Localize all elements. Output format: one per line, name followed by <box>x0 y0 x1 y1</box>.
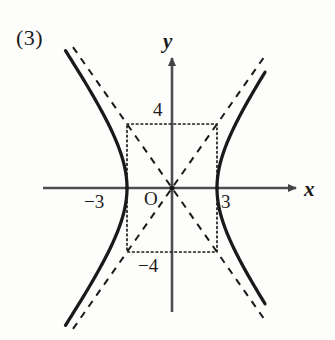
hyperbola-left-branch <box>66 51 128 188</box>
x-tick-label-negative-3: −3 <box>84 192 104 211</box>
y-axis-label: y <box>163 31 172 52</box>
y-tick-label-negative-4: −4 <box>138 256 158 275</box>
hyperbola-right-branch <box>217 72 265 188</box>
x-tick-label-positive-3: 3 <box>221 192 231 211</box>
y-tick-label-positive-4: 4 <box>153 100 163 119</box>
origin-label: O <box>144 189 158 208</box>
asymptote-negative-slope <box>73 47 264 318</box>
hyperbola-figure: (3) y x O −3 3 4 −4 <box>0 0 335 340</box>
problem-number-label: (3) <box>16 27 43 49</box>
x-axis-label: x <box>304 179 315 200</box>
origin-marker <box>169 185 174 190</box>
